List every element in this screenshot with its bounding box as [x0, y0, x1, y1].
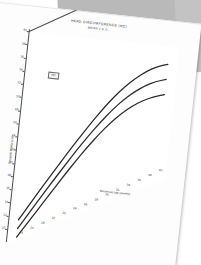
plot-area: Occipital frontal (cm) Menstrual age (we… — [6, 31, 180, 258]
curve-mean — [17, 65, 166, 243]
chart-page-inner: HEAD CIRCUMFERENCE (HC) MEAN ± S.D. Occi… — [0, 2, 201, 265]
curve-minus-2sd — [17, 80, 165, 251]
percentile-curves — [6, 31, 180, 258]
chart-page: HEAD CIRCUMFERENCE (HC) MEAN ± S.D. Occi… — [0, 2, 201, 265]
